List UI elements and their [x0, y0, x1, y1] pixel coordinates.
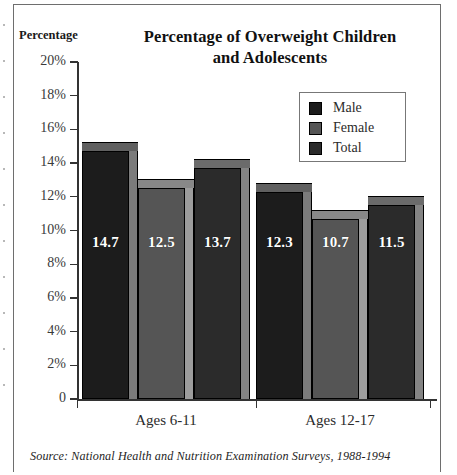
y-axis-tick [70, 297, 78, 298]
edge-artifact [3, 96, 5, 98]
edge-artifact [3, 348, 5, 350]
legend-swatch-female [309, 122, 322, 135]
bar-value-label: 11.5 [368, 234, 415, 251]
bar-female-ages-6-11: 12.5 [138, 179, 194, 399]
bar-front-face [194, 168, 241, 399]
y-axis-tick [70, 129, 78, 130]
bar-top-face [312, 210, 368, 219]
bar-front-face [256, 192, 303, 399]
edge-artifact [3, 60, 5, 62]
y-axis-tick-label: 8% [14, 255, 66, 271]
bar-value-label: 13.7 [194, 234, 241, 251]
bar-male-ages-6-11: 14.7 [82, 142, 138, 399]
legend-label: Total [333, 140, 362, 156]
y-axis-tick-label: 2% [14, 356, 66, 372]
y-axis-tick [70, 264, 78, 265]
y-axis-tick [70, 196, 78, 197]
bar-side-face [129, 142, 138, 399]
bar-value-label: 10.7 [312, 234, 359, 251]
edge-artifact [3, 24, 5, 26]
bar-top-face [138, 179, 194, 188]
x-axis-tick-origin [77, 400, 78, 408]
edge-artifact [3, 276, 5, 278]
x-axis-group-label: Ages 6-11 [70, 412, 262, 429]
legend-box: MaleFemaleTotal [299, 92, 406, 162]
plot-area: 02%4%6%8%10%12%14%16%18%20% 14.712.513.7… [0, 0, 457, 475]
y-axis-tick-label: 14% [14, 154, 66, 170]
y-axis-tick-label: 0 [14, 390, 66, 406]
edge-artifact [3, 168, 5, 170]
x-axis-tick [256, 400, 257, 408]
figure-container: Percentage of Overweight Children and Ad… [0, 0, 457, 475]
bar-side-face [241, 159, 250, 399]
bar-side-face [185, 179, 194, 399]
y-axis-tick [70, 95, 78, 96]
y-axis-tick [70, 230, 78, 231]
bar-value-label: 12.5 [138, 234, 185, 251]
y-axis-tick-label: 12% [14, 188, 66, 204]
bar-value-label: 12.3 [256, 234, 303, 251]
x-axis-tick [430, 400, 431, 408]
bar-value-label: 14.7 [82, 234, 129, 251]
legend-swatch-male [309, 102, 322, 115]
bar-side-face [359, 210, 368, 399]
bar-top-face [82, 142, 138, 151]
y-axis-tick [70, 162, 78, 163]
y-axis-tick [70, 331, 78, 332]
bar-side-face [303, 183, 312, 399]
bar-top-face [368, 196, 424, 205]
y-axis-tick-label: 18% [14, 87, 66, 103]
bar-female-ages-12-17: 10.7 [312, 210, 368, 399]
x-axis-group-label: Ages 12-17 [244, 412, 436, 429]
source-note: Source: National Health and Nutrition Ex… [30, 449, 390, 464]
bar-top-face [256, 183, 312, 192]
bar-front-face [138, 188, 185, 399]
y-axis-tick-label: 6% [14, 289, 66, 305]
y-axis-tick [70, 365, 78, 366]
edge-artifact [3, 312, 5, 314]
edge-artifact [3, 240, 5, 242]
y-axis-tick-label: 16% [14, 120, 66, 136]
y-axis-tick-label: 20% [14, 53, 66, 69]
bar-front-face [82, 151, 129, 399]
bar-total-ages-6-11: 13.7 [194, 159, 250, 399]
legend-label: Female [333, 120, 374, 136]
y-axis-tick-label: 4% [14, 323, 66, 339]
y-axis-tick-label: 10% [14, 222, 66, 238]
bar-top-face [194, 159, 250, 168]
edge-artifact [3, 132, 5, 134]
legend-swatch-total [309, 142, 322, 155]
y-axis-tick [70, 61, 78, 62]
legend-label: Male [333, 100, 362, 116]
edge-artifact [3, 204, 5, 206]
bar-total-ages-12-17: 11.5 [368, 196, 424, 399]
bar-side-face [415, 196, 424, 399]
bar-male-ages-12-17: 12.3 [256, 183, 312, 399]
edge-artifact [3, 384, 5, 386]
